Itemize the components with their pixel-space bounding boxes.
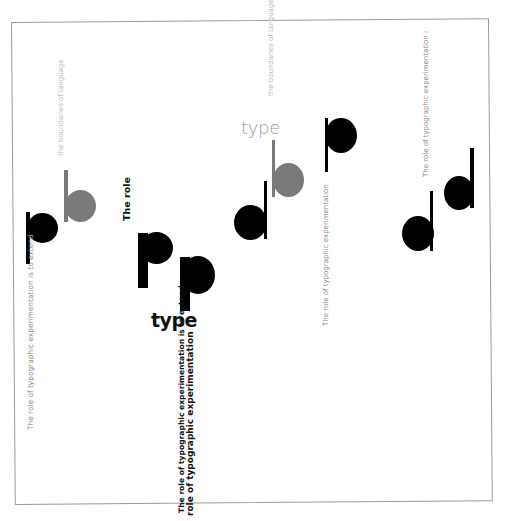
type-light-word: type: [241, 119, 280, 137]
poster-frame: [11, 18, 493, 505]
left-faint-text: the boundaries of language: [58, 59, 65, 156]
glyph-bowl: [140, 232, 173, 264]
right-vertical-text: The role of typographic experimentation …: [423, 31, 430, 177]
glyph-stem: [264, 181, 267, 239]
type-bold-word: type: [151, 311, 197, 330]
mid-right-vertical-text: The role of typographic experimentation: [323, 184, 330, 326]
glyph-stem: [430, 191, 433, 251]
left-vertical-text: The role of typographic experimentation …: [27, 234, 34, 430]
glyph-bowl: [325, 118, 357, 153]
top-center-faint-text: the boundaries of language: [268, 0, 275, 96]
bottom-vertical-line-2: role of typographic experimentation: [186, 331, 195, 516]
glyph-bowl: [65, 190, 96, 222]
glyph-bowl: [273, 163, 304, 197]
the-role-bold-text: The role: [122, 177, 132, 221]
glyph-bowl: [234, 205, 267, 240]
glyph-stem: [470, 148, 474, 208]
glyph-bowl: [181, 256, 215, 294]
